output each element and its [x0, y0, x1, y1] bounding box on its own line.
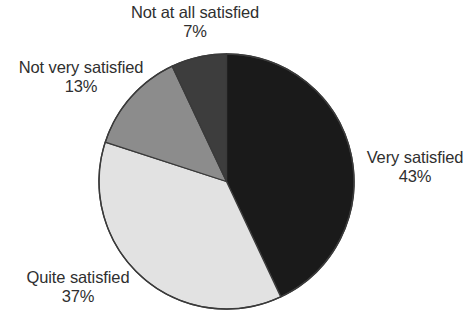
pie-label-very-satisfied-value: 43%	[356, 167, 469, 186]
pie-label-very-satisfied: Very satisfied 43%	[356, 148, 469, 187]
pie-label-quite-satisfied-value: 37%	[0, 287, 158, 306]
pie-label-not-very-satisfied-value: 13%	[0, 77, 166, 96]
pie-label-not-at-all-satisfied-value: 7%	[102, 22, 288, 41]
pie-label-quite-satisfied-name: Quite satisfied	[0, 268, 158, 287]
pie-label-very-satisfied-name: Very satisfied	[356, 148, 469, 167]
pie-label-not-at-all-satisfied-name: Not at all satisfied	[102, 3, 288, 22]
pie-label-not-at-all-satisfied: Not at all satisfied 7%	[102, 3, 288, 42]
pie-chart: Not at all satisfied 7% Not very satisfi…	[0, 0, 469, 315]
pie-label-quite-satisfied: Quite satisfied 37%	[0, 268, 158, 307]
pie-label-not-very-satisfied-name: Not very satisfied	[0, 58, 166, 77]
pie-label-not-very-satisfied: Not very satisfied 13%	[0, 58, 166, 97]
